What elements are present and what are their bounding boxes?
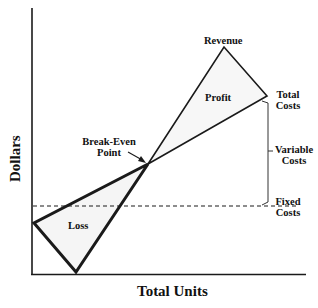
profit-region <box>148 47 267 164</box>
fixed-costs-label: Fixed Costs <box>268 197 308 218</box>
profit-label: Profit <box>205 93 231 104</box>
total-costs-label: Total Costs <box>270 90 306 111</box>
break-even-line2: Point <box>82 148 136 159</box>
loss-region <box>34 164 148 272</box>
y-axis-label: Dollars <box>8 135 23 182</box>
total-costs-line1: Total <box>270 90 306 101</box>
break-even-line1: Break-Even <box>82 137 136 148</box>
fixed-costs-line1: Fixed <box>268 197 308 208</box>
x-axis-label: Total Units <box>137 284 208 299</box>
arrowhead-icon <box>138 156 146 163</box>
break-even-label: Break-Even Point <box>82 137 136 158</box>
variable-costs-line1: Variable <box>271 145 317 156</box>
variable-costs-label: Variable Costs <box>271 145 317 166</box>
break-even-diagram: Revenue Profit Total Costs Break-Even Po… <box>0 0 318 308</box>
loss-label: Loss <box>68 221 88 232</box>
revenue-label: Revenue <box>204 36 243 47</box>
fixed-costs-line2: Costs <box>268 208 308 219</box>
variable-costs-line2: Costs <box>271 156 317 167</box>
variable-costs-bracket <box>262 101 268 205</box>
total-costs-line2: Costs <box>270 101 306 112</box>
